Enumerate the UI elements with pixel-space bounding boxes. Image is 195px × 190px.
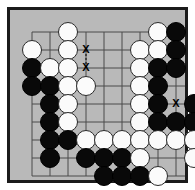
- go-board-surface: XXX: [10, 10, 185, 180]
- board-marker-x: X: [170, 98, 182, 109]
- go-stone-white: [184, 130, 195, 150]
- board-marker-x: X: [80, 62, 92, 73]
- go-diagram-screenshot: XXX: [0, 0, 195, 190]
- go-marker-layer: XXX: [10, 10, 185, 180]
- go-stone-black: [184, 94, 195, 114]
- go-board-frame: XXX: [7, 7, 188, 183]
- go-stone-black: [184, 112, 195, 132]
- go-stone-white: [184, 148, 195, 168]
- board-marker-x: X: [80, 44, 92, 55]
